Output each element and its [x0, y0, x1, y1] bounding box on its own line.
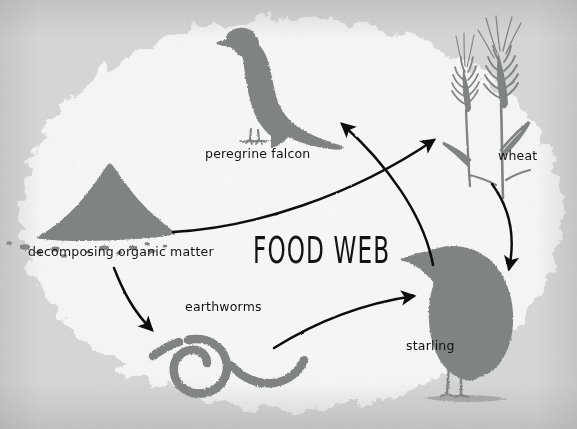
node-label-starling: starling: [406, 340, 455, 353]
diagram-title: FOOD WEB: [253, 229, 390, 273]
starling-silhouette: [401, 246, 513, 402]
food-web-diagram: FOOD WEB peregrine falcon wheat decompos…: [0, 0, 577, 429]
earthworm-silhouette: [153, 339, 304, 394]
arrow-compost-to-earthworms: [114, 268, 152, 330]
node-label-decomposing-organic-matter: decomposing organic matter: [28, 246, 214, 259]
wheat-stalks-silhouette: [442, 16, 531, 198]
arrow-earthworms-to-starling: [274, 296, 414, 348]
node-label-peregrine-falcon: peregrine falcon: [205, 148, 311, 161]
node-label-earthworms: earthworms: [185, 301, 262, 314]
peregrine-falcon-silhouette: [216, 28, 344, 150]
node-label-wheat: wheat: [498, 150, 537, 163]
